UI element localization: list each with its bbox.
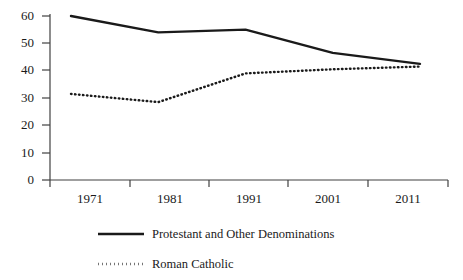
- line-chart-figure: 60 50 40 30 20 10 0 1971 1981 1991 2001 …: [0, 0, 463, 280]
- x-tick-label-2001: 2001: [298, 191, 358, 207]
- y-tick-label-20: 20: [6, 117, 34, 133]
- y-tick-label-50: 50: [6, 35, 34, 51]
- y-tick-label-0: 0: [6, 172, 34, 188]
- legend-item-protestant: Protestant and Other Denominations: [152, 227, 334, 242]
- y-tick-label-30: 30: [6, 90, 34, 106]
- y-tick-label-40: 40: [6, 62, 34, 78]
- x-tick-label-1971: 1971: [60, 191, 120, 207]
- x-axis-ticks: [50, 180, 448, 187]
- y-axis-ticks: [42, 16, 50, 180]
- x-tick-label-2011: 2011: [378, 191, 438, 207]
- x-tick-label-1981: 1981: [140, 191, 200, 207]
- x-tick-label-1991: 1991: [219, 191, 279, 207]
- y-tick-label-10: 10: [6, 145, 34, 161]
- legend-item-roman-catholic: Roman Catholic: [152, 257, 234, 272]
- series-line-roman-catholic: [71, 67, 420, 103]
- series-line-protestant: [71, 16, 420, 64]
- y-tick-label-60: 60: [6, 8, 34, 24]
